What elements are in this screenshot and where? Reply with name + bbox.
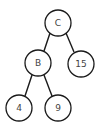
node-B: B xyxy=(25,50,51,76)
node-9: 9 xyxy=(45,95,71,121)
node-4: 4 xyxy=(6,95,32,121)
node-4-label: 4 xyxy=(16,103,22,113)
edge-C-B xyxy=(44,33,50,51)
node-C-label: C xyxy=(55,18,61,28)
node-15: 15 xyxy=(68,51,94,77)
tree-diagram: C B 15 4 9 xyxy=(0,0,104,132)
node-9-label: 9 xyxy=(55,103,61,113)
node-B-label: B xyxy=(35,58,41,68)
node-C: C xyxy=(45,10,71,36)
edge-B-9 xyxy=(44,75,52,96)
edge-C-15 xyxy=(66,33,74,52)
edge-B-4 xyxy=(25,75,32,96)
nodes: C B 15 4 9 xyxy=(6,10,94,121)
node-15-label: 15 xyxy=(75,59,86,69)
